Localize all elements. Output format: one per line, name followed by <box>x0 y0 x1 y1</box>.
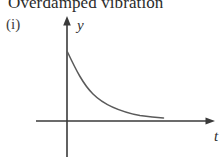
arrow-right-icon <box>206 117 216 124</box>
overdamped-vibration-figure: Overdamped vibration (i) y t <box>0 0 222 157</box>
t-axis-label: t <box>214 128 218 144</box>
arrow-up-icon <box>63 16 71 26</box>
plot-area <box>0 0 222 157</box>
decay-curve <box>68 52 164 118</box>
y-axis-label: y <box>77 17 84 33</box>
